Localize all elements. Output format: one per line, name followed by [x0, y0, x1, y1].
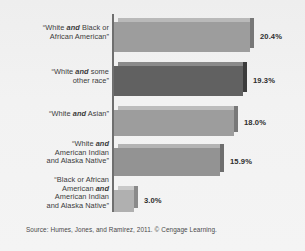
bar-value-label: 19.3% — [253, 76, 275, 85]
bar-category-label-line: other race” — [5, 77, 109, 86]
bar-category-label: “White and someother race” — [5, 68, 109, 85]
bar-side-face — [234, 106, 238, 132]
bar-side-face — [250, 18, 254, 48]
bar — [114, 62, 247, 96]
bar — [114, 144, 224, 176]
bar-side-face — [220, 144, 224, 172]
source-note: Source: Humes, Jones, and Ramirez, 2011.… — [26, 226, 217, 233]
plot-area: “White and Black orAfrican American”20.4… — [0, 8, 305, 216]
bar-side-face — [243, 62, 247, 92]
bar — [114, 186, 138, 212]
bar-value-label: 15.9% — [230, 157, 252, 166]
bar-category-label-line: and Alaska Native” — [5, 157, 109, 166]
bar-front-face — [114, 66, 243, 96]
bar-value-label: 18.0% — [244, 118, 266, 127]
bar-category-label-line: African American” — [5, 33, 109, 42]
bar-front-face — [114, 110, 234, 136]
bar-category-label: “White and Asian” — [5, 110, 109, 119]
bar-front-face — [114, 148, 220, 176]
bar-value-label: 3.0% — [144, 196, 162, 205]
bar — [114, 18, 254, 52]
bar-category-label: “Black or AfricanAmerican andAmerican In… — [5, 176, 109, 210]
bar-category-label-line: and Alaska Native” — [5, 202, 109, 211]
bar-category-label: “White andAmerican Indianand Alaska Nati… — [5, 140, 109, 166]
bar-front-face — [114, 190, 134, 212]
chart-figure: “White and Black orAfrican American”20.4… — [0, 0, 305, 251]
bar-side-face — [134, 186, 138, 208]
bar-category-label-line: “White and Asian” — [5, 110, 109, 119]
bar-category-label: “White and Black orAfrican American” — [5, 24, 109, 41]
bar-front-face — [114, 22, 250, 52]
bar — [114, 106, 238, 136]
bar-value-label: 20.4% — [260, 32, 282, 41]
